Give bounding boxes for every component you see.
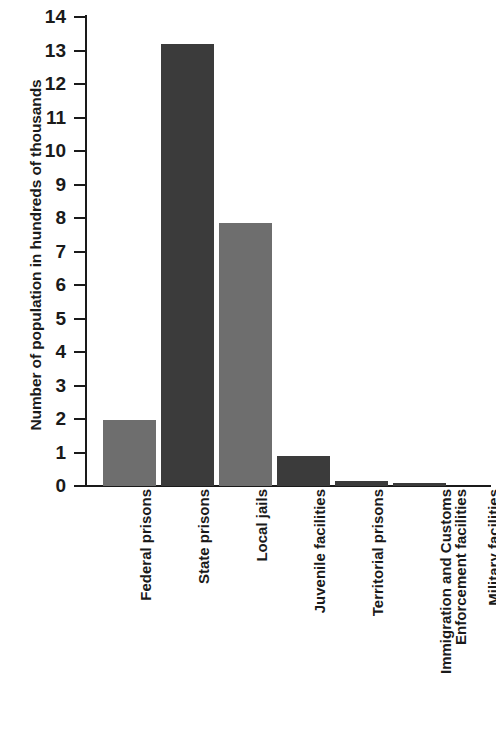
y-tick-label-5: 5 (6, 309, 66, 328)
x-axis-label-2: State prisons (196, 489, 211, 584)
x-axis-label-text: Federal prisons (137, 489, 154, 601)
y-tick-label-11: 11 (6, 108, 66, 127)
bar-5 (335, 481, 388, 486)
y-tick-14 (74, 16, 85, 18)
y-tick-label-13: 13 (6, 41, 66, 60)
y-tick-label-2: 2 (6, 409, 66, 428)
x-axis-label-text: Local jails (253, 489, 270, 562)
x-axis-label-7: Military facilities (486, 489, 496, 606)
bar-4 (277, 456, 330, 486)
y-tick-label-3: 3 (6, 376, 66, 395)
bar-1 (103, 420, 156, 486)
y-tick-label-14: 14 (6, 7, 66, 26)
y-tick-9 (74, 184, 85, 186)
y-tick-7 (74, 251, 85, 253)
y-tick-label-1: 1 (6, 443, 66, 462)
y-tick-label-7: 7 (6, 242, 66, 261)
x-axis-label-text: Enforcement facilities (453, 489, 468, 674)
x-axis-label-5: Territorial prisons (370, 489, 385, 616)
x-axis-label-4: Juvenile facilities (312, 489, 327, 613)
y-tick-label-9: 9 (6, 175, 66, 194)
bar-3 (219, 223, 272, 486)
x-axis-label-text: Territorial prisons (369, 489, 386, 616)
y-tick-label-8: 8 (6, 208, 66, 227)
x-axis-label-1: Federal prisons (138, 489, 153, 601)
y-tick-2 (74, 418, 85, 420)
y-tick-label-4: 4 (6, 342, 66, 361)
x-axis-label-text: State prisons (195, 489, 212, 584)
y-tick-0 (74, 485, 85, 487)
x-axis-label-3: Local jails (254, 489, 269, 562)
y-tick-1 (74, 452, 85, 454)
x-axis-labels: Federal prisonsState prisonsLocal jailsJ… (85, 489, 489, 747)
bar-6 (393, 483, 446, 486)
y-tick-label-10: 10 (6, 141, 66, 160)
x-axis-label-text: Military facilities (485, 489, 496, 606)
x-axis-label-6: Immigration and CustomsEnforcement facil… (438, 489, 469, 674)
y-tick-13 (74, 50, 85, 52)
y-tick-4 (74, 351, 85, 353)
y-tick-8 (74, 217, 85, 219)
y-tick-10 (74, 150, 85, 152)
y-tick-11 (74, 117, 85, 119)
y-tick-label-6: 6 (6, 275, 66, 294)
y-tick-6 (74, 284, 85, 286)
x-axis-label-text: Immigration and Customs (437, 489, 454, 674)
y-tick-label-12: 12 (6, 74, 66, 93)
bars-layer (85, 17, 489, 486)
y-tick-3 (74, 385, 85, 387)
bar-chart: Number of population in hundreds of thou… (0, 0, 496, 747)
bar-2 (161, 44, 214, 486)
y-tick-label-0: 0 (6, 476, 66, 495)
y-tick-12 (74, 83, 85, 85)
x-axis-label-text: Juvenile facilities (311, 489, 328, 613)
y-tick-5 (74, 318, 85, 320)
